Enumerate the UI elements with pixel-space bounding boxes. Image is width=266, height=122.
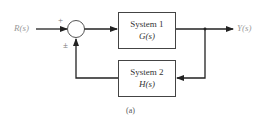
input-label: R(s) <box>14 24 29 33</box>
system-1-block: System 1 G(s) <box>118 12 176 49</box>
output-label: Y(s) <box>237 24 252 33</box>
plus-minus-sign: ± <box>63 41 68 50</box>
figure-caption: (a) <box>126 107 135 115</box>
system-1-function: G(s) <box>139 31 155 42</box>
system-2-function: H(s) <box>139 79 155 90</box>
feedback-path-right <box>177 29 205 78</box>
system-1-name: System 1 <box>130 19 163 30</box>
system-2-block: System 2 H(s) <box>118 60 176 97</box>
plus-sign: + <box>58 16 63 25</box>
feedback-path-left <box>76 39 118 78</box>
system-2-name: System 2 <box>130 67 163 78</box>
summing-junction <box>68 21 85 38</box>
